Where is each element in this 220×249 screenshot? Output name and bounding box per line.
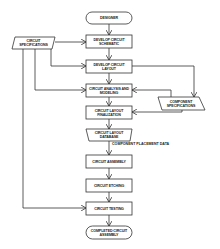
develop-layout-box <box>86 60 132 73</box>
flowchart <box>0 0 220 249</box>
circuit-testing-box <box>86 202 132 215</box>
completed-assembly-terminal <box>86 226 132 239</box>
layout-database-data <box>86 129 132 141</box>
edge-specs-layout <box>51 49 86 66</box>
edge-layout-component-specs <box>132 66 194 97</box>
edge-component-specs-analysis <box>132 90 171 97</box>
develop-schematic-box <box>86 35 132 48</box>
placement-data-label: COMPONENT PLACEMENT DATA <box>112 142 169 147</box>
designer-terminal <box>86 12 132 24</box>
circuit-specs-data <box>12 37 55 49</box>
analysis-modeling-box <box>86 84 132 97</box>
circuit-etching-box <box>86 179 132 192</box>
component-specs-data <box>158 97 205 110</box>
circuit-assembly-box <box>86 155 132 168</box>
edge-specs-analysis <box>35 49 86 90</box>
layout-finalization-box <box>86 106 132 119</box>
edge-specs-testing <box>23 49 86 208</box>
